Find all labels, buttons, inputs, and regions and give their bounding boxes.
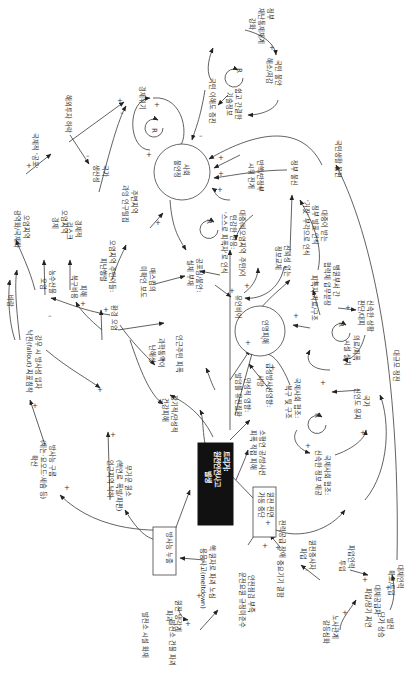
svg-text:주변지역: 주변지역 bbox=[130, 190, 139, 214]
svg-text:+: + bbox=[345, 304, 351, 312]
svg-text:+: + bbox=[245, 339, 251, 347]
svg-text:+: + bbox=[314, 279, 320, 287]
svg-text:+: + bbox=[160, 356, 166, 364]
svg-text:피해: 피해 bbox=[79, 285, 88, 297]
svg-text:신뢰성 없는: 신뢰성 없는 bbox=[283, 245, 292, 277]
svg-text:확산: 확산 bbox=[30, 455, 39, 467]
svg-text:병원부서 간: 병원부서 간 bbox=[332, 265, 341, 297]
svg-text:+: + bbox=[103, 306, 109, 314]
svg-text:환경 오염: 환경 오염 bbox=[110, 305, 119, 331]
svg-text:+: + bbox=[275, 544, 281, 552]
svg-text:+: + bbox=[244, 282, 250, 290]
svg-text:+: + bbox=[196, 592, 202, 600]
svg-text:소형연 공/방사선: 소형연 공/방사선 bbox=[258, 430, 267, 476]
svg-text:+: + bbox=[342, 609, 348, 617]
svg-text:발생: 발생 bbox=[204, 471, 213, 483]
svg-text:생산성: 생산성 bbox=[92, 165, 101, 183]
svg-text:전력공급 장애: 전력공급 장애 bbox=[278, 520, 287, 558]
svg-text:불안정: 불안정 bbox=[173, 160, 182, 178]
svg-text:해외투자 하락: 해외투자 하락 bbox=[64, 95, 73, 133]
svg-text:미확인 보도: 미확인 보도 bbox=[139, 266, 148, 298]
svg-text:+: + bbox=[262, 542, 268, 550]
svg-text:+: + bbox=[26, 162, 32, 170]
svg-text:무거운 원소: 무거운 원소 bbox=[124, 465, 133, 497]
svg-text:단가 상승: 단가 상승 bbox=[377, 612, 386, 638]
svg-text:+: + bbox=[362, 576, 368, 584]
central-trigger-node: 트리거: 원전안전사고 발생 bbox=[198, 443, 233, 525]
svg-text:+: + bbox=[229, 287, 235, 295]
svg-text:장기적/만성적: 장기적/만성적 bbox=[170, 395, 179, 433]
svg-text:경제적: 경제적 bbox=[74, 220, 83, 238]
svg-text:기술정보: 기술정보 bbox=[225, 92, 234, 116]
svg-text:피폭 직접 피해: 피폭 직접 피해 bbox=[249, 430, 258, 470]
svg-text:대체공급처: 대체공급처 bbox=[373, 585, 382, 615]
svg-text:가동 중단: 가동 중단 bbox=[257, 492, 266, 518]
svg-text:난해성: 난해성 bbox=[148, 345, 157, 363]
svg-text:낙진(fallout) 지표침착: 낙진(fallout) 지표침착 bbox=[25, 330, 34, 393]
svg-text:+: + bbox=[155, 219, 161, 227]
svg-text:시위 전개: 시위 전개 bbox=[247, 163, 256, 189]
svg-text:쉽고 간결한: 쉽고 간결한 bbox=[234, 88, 243, 120]
svg-text:강우 시 방사성 입자: 강우 시 방사성 입자 bbox=[34, 335, 43, 389]
svg-text:오염지역: 오염지역 bbox=[22, 215, 31, 239]
svg-text:R: R bbox=[205, 219, 213, 224]
svg-text:국민생활 불편: 국민생활 불편 bbox=[334, 140, 343, 178]
svg-text:파업: 파업 bbox=[299, 548, 308, 560]
svg-text:원전안전사고: 원전안전사고 bbox=[213, 451, 222, 488]
svg-text:의료/피폭: 의료/피폭 bbox=[352, 335, 361, 361]
causal-loop-diagram: R R R R R 사회 불안정 인명피해 트리거: 원전안전사고 발생 bbox=[0, 0, 407, 685]
svg-text:+: + bbox=[293, 312, 299, 320]
svg-text:+: + bbox=[97, 386, 103, 394]
svg-text:투입: 투입 bbox=[338, 560, 346, 572]
svg-text:오염지역 주민이들:: 오염지역 주민이들: bbox=[108, 240, 117, 292]
svg-text:+: + bbox=[217, 186, 223, 194]
svg-text:정부: 정부 bbox=[266, 8, 275, 20]
svg-text:해소/저감: 해소/저감 bbox=[265, 58, 274, 84]
svg-text:피난행렬: 피난행렬 bbox=[99, 258, 108, 282]
svg-text:국제사회 협조:: 국제사회 협조: bbox=[323, 455, 332, 495]
svg-text:+: + bbox=[265, 519, 271, 527]
svg-text:방사능 구름: 방사능 구름 bbox=[48, 445, 57, 477]
svg-text:방사능 누출: 방사능 누출 bbox=[165, 532, 174, 564]
svg-text:사망: 사망 bbox=[256, 375, 265, 387]
svg-text:정부 불신: 정부 불신 bbox=[290, 160, 299, 186]
svg-text:+: + bbox=[64, 484, 70, 492]
svg-text:+: + bbox=[218, 154, 224, 162]
svg-text:–: – bbox=[48, 312, 52, 320]
svg-text:정보교체: 정보교체 bbox=[274, 246, 283, 270]
svg-text:경제: 경제 bbox=[51, 217, 60, 229]
svg-text:파업인력: 파업인력 bbox=[347, 545, 356, 569]
svg-text:트리거:: 트리거: bbox=[222, 451, 231, 472]
svg-text:만성적 영향:: 만성적 영향: bbox=[243, 378, 252, 412]
svg-text:발전소 시설 화재: 발전소 시설 화재 bbox=[141, 612, 150, 658]
svg-text:운전요원 규정미준수: 운전요원 규정미준수 bbox=[238, 572, 247, 628]
svg-text:+: + bbox=[258, 184, 264, 192]
svg-text:매스컴의: 매스컴의 bbox=[148, 268, 157, 292]
node-econ-crisis: 경제위기 bbox=[138, 86, 147, 110]
svg-text:국민 이해도 증진: 국민 이해도 증진 bbox=[208, 78, 217, 124]
svg-text:R: R bbox=[313, 413, 321, 418]
svg-text:대규모 정전: 대규모 정전 bbox=[392, 350, 401, 382]
svg-text:국가: 국가 bbox=[101, 165, 110, 177]
svg-text:국제사회 협조:: 국제사회 협조: bbox=[293, 378, 302, 418]
loop-r-rumor: R bbox=[200, 219, 218, 238]
svg-text:+: + bbox=[360, 429, 366, 437]
svg-text:+: + bbox=[320, 379, 326, 387]
svg-text:발전소 건물 파괴: 발전소 건물 파괴 bbox=[168, 620, 177, 666]
svg-text:노사관계: 노사관계 bbox=[331, 615, 340, 639]
svg-text:R: R bbox=[337, 322, 345, 327]
svg-text:'스스로 피폭자'로 인식: '스스로 피폭자'로 인식 bbox=[220, 212, 229, 274]
svg-text:원전 전면: 원전 전면 bbox=[266, 492, 275, 518]
svg-text:신속한 정보 제공: 신속한 정보 제공 bbox=[314, 450, 323, 496]
svg-text:–: – bbox=[260, 334, 264, 342]
svg-text:국가: 국가 bbox=[362, 395, 371, 407]
node-radiation-leak: 방사능 누출 bbox=[153, 527, 176, 575]
svg-text:대체인력: 대체인력 bbox=[396, 565, 405, 589]
svg-text:대중(비오염지역 주민)이: 대중(비오염지역 주민)이 bbox=[238, 210, 247, 277]
svg-text:–: – bbox=[120, 109, 124, 117]
svg-text:유언비어: 유언비어 bbox=[234, 295, 243, 319]
svg-text:바람: 바람 bbox=[6, 295, 15, 307]
loop-r-econ: R bbox=[145, 119, 163, 137]
svg-text:+: + bbox=[305, 442, 311, 450]
svg-text:복구비용: 복구비용 bbox=[70, 275, 79, 299]
